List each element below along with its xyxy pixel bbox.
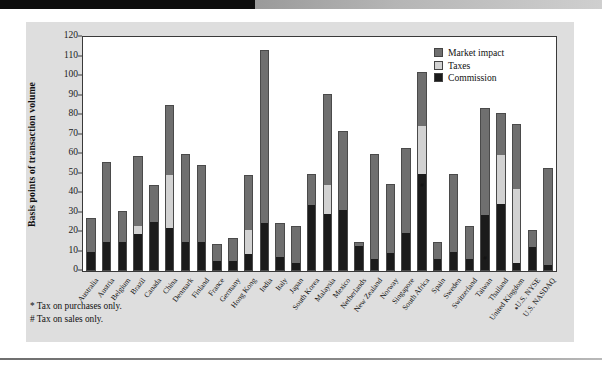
bar-segment-commission xyxy=(323,214,332,271)
bar-segment-market_impact xyxy=(386,184,395,253)
bar-netherlands[interactable] xyxy=(354,242,363,271)
bar-segment-market_impact xyxy=(149,185,158,222)
bar-sweden[interactable] xyxy=(449,174,458,271)
bar-south-africa[interactable]: # xyxy=(417,72,426,271)
bar-spain[interactable] xyxy=(433,242,442,271)
bar-segment-market_impact xyxy=(543,168,552,266)
header-black-bar xyxy=(0,0,255,9)
bar-u-s-nasdaq[interactable] xyxy=(543,168,552,271)
bar-segment-taxes xyxy=(244,230,253,254)
bar-annotation-marker: # xyxy=(483,255,487,262)
bar-segment-taxes xyxy=(496,155,505,204)
bar-segment-taxes xyxy=(133,226,142,234)
y-axis-tick-label: 70 xyxy=(69,129,79,139)
bar-segment-commission xyxy=(133,234,142,271)
y-axis-tick-label: 120 xyxy=(64,31,78,41)
bar-italy[interactable] xyxy=(275,223,284,271)
bar-segment-market_impact xyxy=(480,108,489,215)
bar-finland[interactable] xyxy=(197,165,206,271)
bar-segment-commission xyxy=(118,242,127,271)
bar-germany[interactable] xyxy=(228,238,237,271)
y-axis-tick-label: 80 xyxy=(69,109,79,119)
bar-singapore[interactable] xyxy=(401,148,410,271)
y-axis: 0102030405060708090100110120 xyxy=(26,36,82,272)
bar-segment-commission xyxy=(354,246,363,271)
legend-item-taxes[interactable]: Taxes xyxy=(434,61,504,71)
bar-new-zealand[interactable] xyxy=(370,154,379,271)
x-axis-labels: AustraliaAustriaBelgiumBrazilCanadaChina… xyxy=(82,274,557,344)
bar-segment-commission xyxy=(401,233,410,271)
bar-segment-market_impact xyxy=(197,165,206,242)
bar-segment-commission xyxy=(291,263,300,271)
bar-segment-commission xyxy=(449,252,458,272)
bar-austria[interactable] xyxy=(102,162,111,271)
bar-segment-market_impact xyxy=(528,230,537,247)
bar-segment-market_impact xyxy=(496,113,505,155)
bar-canada[interactable] xyxy=(149,185,158,271)
footnote-2: # Tax on sales only. xyxy=(30,313,122,326)
bar-segment-commission xyxy=(181,242,190,271)
bar-segment-commission xyxy=(417,174,426,271)
bar-japan[interactable] xyxy=(291,226,300,271)
bar-segment-market_impact xyxy=(165,105,174,175)
bar-united-kingdom[interactable]: * xyxy=(512,124,521,271)
bar-segment-commission xyxy=(165,228,174,271)
bar-segment-commission xyxy=(480,215,489,271)
bar-brazil[interactable] xyxy=(133,156,142,271)
y-axis-tick-label: 100 xyxy=(64,70,78,80)
footnotes: * Tax on purchases only.# Tax on sales o… xyxy=(30,300,122,327)
bar-segment-market_impact xyxy=(212,244,221,262)
legend-swatch-taxes xyxy=(434,61,443,70)
bar-belgium[interactable] xyxy=(118,211,127,271)
bar-segment-commission xyxy=(370,259,379,271)
y-axis-tick-label: 20 xyxy=(69,226,79,236)
bar-segment-taxes xyxy=(323,185,332,214)
bar-segment-commission xyxy=(197,242,206,271)
chart-legend: Market impactTaxesCommission xyxy=(434,48,504,86)
bar-china[interactable] xyxy=(165,105,174,271)
legend-swatch-market-impact xyxy=(434,48,443,57)
y-axis-tick-label: 110 xyxy=(64,51,78,61)
bar-segment-market_impact xyxy=(417,72,426,126)
bar-segment-commission xyxy=(496,204,505,271)
bar-south-korea[interactable] xyxy=(307,174,316,271)
x-axis-label-india: India xyxy=(257,276,274,294)
bar-mexico[interactable] xyxy=(338,131,347,271)
legend-item-market-impact[interactable]: Market impact xyxy=(434,48,504,58)
bar-u-s-nyse[interactable] xyxy=(528,230,537,271)
bar-segment-commission xyxy=(338,210,347,271)
y-axis-tick-label: 60 xyxy=(69,148,79,158)
bar-segment-market_impact xyxy=(401,148,410,233)
bar-segment-market_impact xyxy=(338,131,347,210)
bar-segment-commission xyxy=(543,265,552,271)
bar-segment-market_impact xyxy=(275,223,284,257)
bar-segment-commission xyxy=(528,247,537,271)
y-axis-tick-label: 90 xyxy=(69,90,79,100)
bar-segment-market_impact xyxy=(433,242,442,260)
bar-segment-market_impact xyxy=(133,156,142,226)
bar-segment-market_impact xyxy=(512,124,521,189)
bar-france[interactable] xyxy=(212,244,221,271)
bar-segment-market_impact xyxy=(260,50,269,224)
bar-segment-commission xyxy=(386,253,395,271)
bar-norway[interactable] xyxy=(386,184,395,271)
bar-segment-market_impact xyxy=(86,218,95,251)
legend-item-commission[interactable]: Commission xyxy=(434,73,504,83)
bar-switzerland[interactable] xyxy=(465,226,474,271)
bar-denmark[interactable] xyxy=(181,154,190,271)
bar-segment-commission xyxy=(244,254,253,271)
bar-australia[interactable] xyxy=(86,218,95,271)
bar-segment-taxes xyxy=(417,126,426,175)
bar-hong-kong[interactable] xyxy=(244,175,253,271)
bar-annotation-marker: # xyxy=(420,182,424,189)
legend-label: Taxes xyxy=(448,61,470,71)
bar-india[interactable] xyxy=(260,50,269,271)
bar-malaysia[interactable] xyxy=(323,94,332,271)
figure-panel: Basis points of transaction volume 01020… xyxy=(26,22,574,342)
bar-taiwan[interactable]: # xyxy=(480,108,489,271)
y-axis-tick-label: 30 xyxy=(69,207,79,217)
footnote-1: * Tax on purchases only. xyxy=(30,300,122,313)
legend-label: Commission xyxy=(448,73,497,83)
bar-thailand[interactable] xyxy=(496,113,505,271)
bar-segment-commission xyxy=(465,259,474,271)
